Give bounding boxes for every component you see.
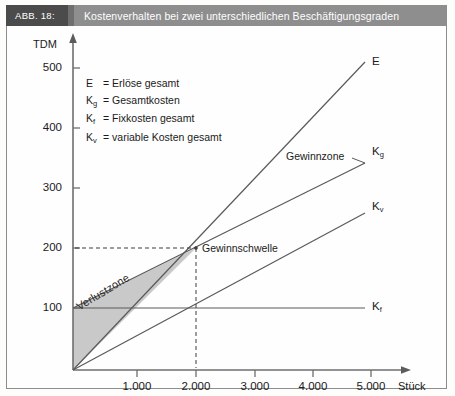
chart-canvas [0,0,455,396]
legend-item-kv: Kv = variable Kosten gesamt [86,129,222,148]
legend-text-kg: = Gesamtkosten [103,92,180,109]
x-axis-ticks [137,370,371,377]
y-axis-ticks [73,68,80,308]
curve-label-kv: Kv [372,200,383,212]
y-axis-unit-label: TDM [33,38,57,50]
y-tick-label-500: 500 [28,61,62,73]
legend-item-kf: Kf = Fixkosten gesamt [86,110,222,129]
legend-text-kf: = Fixkosten gesamt [103,110,194,127]
legend-symbol-kv: Kv [86,129,103,148]
chart-legend: E = Erlöse gesamt Kg = Gesamtkosten Kf =… [86,75,222,147]
y-tick-label-100: 100 [28,301,62,313]
x-tick-label-3000: 3.000 [232,380,278,392]
curve-label-kg: Kg [372,145,384,157]
breakeven-point-marker [194,246,198,250]
legend-symbol-kg: Kg [86,92,103,111]
legend-item-e: E = Erlöse gesamt [86,75,222,92]
x-tick-label-2000: 2.000 [173,380,219,392]
verlustzone-region [73,248,196,370]
y-tick-label-300: 300 [28,181,62,193]
legend-text-kv: = variable Kosten gesamt [103,129,222,146]
x-tick-label-1000: 1.000 [114,380,160,392]
y-axis-arrow-icon [69,33,77,43]
figure-container: ABB. 18: Kostenverhalten bei zwei unters… [0,0,455,396]
legend-symbol-kf: Kf [86,110,103,129]
x-axis-unit-label: Stück [398,380,426,392]
legend-item-kg: Kg = Gesamtkosten [86,92,222,111]
annotation-gewinnzone: Gewinnzone [286,150,344,162]
legend-symbol-e: E [86,75,103,92]
x-axis-arrow-icon [401,366,411,374]
annotation-gewinnschwelle: Gewinnschwelle [202,242,278,254]
x-tick-label-4000: 4.000 [290,380,336,392]
y-tick-label-400: 400 [28,121,62,133]
curve-label-e: E [372,55,380,67]
y-tick-label-200: 200 [28,241,62,253]
legend-text-e: = Erlöse gesamt [103,75,179,92]
x-tick-label-5000: 5.000 [348,380,394,392]
curve-label-kf: Kf [372,300,382,312]
kg-leader-line [352,158,365,163]
